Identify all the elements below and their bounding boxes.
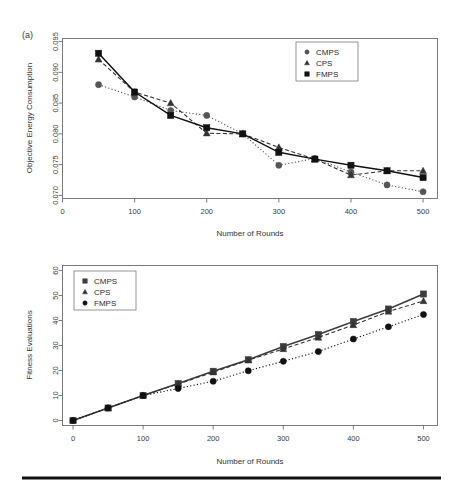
x-tick-label: 500 <box>417 207 430 216</box>
legend-marker-cmps-icon <box>305 50 309 54</box>
legend-label-cps[interactable]: CPS <box>316 59 332 68</box>
x-tick-label: 300 <box>277 434 290 443</box>
top-y-axis-title: Objective Energy Consumption <box>25 63 34 173</box>
data-point-fmps <box>210 378 216 384</box>
data-point-fmps <box>168 112 174 118</box>
y-tick-label: 0.095 <box>51 32 60 51</box>
data-point-fmps <box>384 168 390 174</box>
data-point-fmps <box>70 417 76 423</box>
x-tick-label: 200 <box>207 434 220 443</box>
x-tick-label: 200 <box>200 207 213 216</box>
x-tick-label: 300 <box>273 207 286 216</box>
top-x-axis-title: Number of Rounds <box>216 229 283 238</box>
x-tick-label: 500 <box>417 434 430 443</box>
y-tick-label: 30 <box>51 341 60 349</box>
data-point-fmps <box>240 131 246 137</box>
data-point-cmps <box>276 162 282 168</box>
bottom-y-axis-title: Fitness Evaluations <box>25 310 34 379</box>
legend-marker-fmps-icon <box>305 72 309 76</box>
figure-background <box>0 0 463 490</box>
y-tick-label: 0.090 <box>51 63 60 82</box>
data-point-fmps <box>350 336 356 342</box>
data-point-fmps <box>315 348 321 354</box>
y-tick-label: 20 <box>51 366 60 374</box>
data-point-fmps <box>175 385 181 391</box>
y-tick-label: 40 <box>51 316 60 324</box>
data-point-cmps <box>95 82 101 88</box>
y-tick-label: 0.085 <box>51 94 60 113</box>
x-tick-label: 100 <box>137 434 150 443</box>
x-tick-label: 0 <box>71 434 75 443</box>
y-tick-label: 0.075 <box>51 155 60 174</box>
figure-canvas: (a) 0.0700.0750.0800.0850.0900.095 01002… <box>0 0 463 490</box>
data-point-cmps <box>384 182 390 188</box>
y-tick-label: 0 <box>51 418 60 422</box>
x-tick-label: 400 <box>347 434 360 443</box>
data-point-fmps <box>140 392 146 398</box>
legend-label-fmps[interactable]: FMPS <box>94 299 116 308</box>
data-point-cmps <box>420 189 426 195</box>
bottom-x-axis-title: Number of Rounds <box>216 457 283 466</box>
y-tick-label: 10 <box>51 391 60 399</box>
data-point-cmps <box>420 291 426 297</box>
data-point-fmps <box>95 50 101 56</box>
y-tick-label: 0.070 <box>51 186 60 205</box>
legend-label-cps[interactable]: CPS <box>94 288 110 297</box>
legend-marker-fmps-icon <box>83 301 87 305</box>
data-point-fmps <box>385 324 391 330</box>
data-point-fmps <box>276 149 282 155</box>
y-tick-label: 0.080 <box>51 124 60 143</box>
y-tick-label: 60 <box>51 266 60 274</box>
data-point-fmps <box>105 405 111 411</box>
x-tick-label: 0 <box>60 207 64 216</box>
data-point-cmps <box>204 112 210 118</box>
data-point-fmps <box>348 162 354 168</box>
legend-label-cmps[interactable]: CMPS <box>94 277 117 286</box>
data-point-fmps <box>420 311 426 317</box>
data-point-fmps <box>204 125 210 131</box>
legend-label-cmps[interactable]: CMPS <box>316 48 339 57</box>
x-tick-label: 400 <box>345 207 358 216</box>
data-point-fmps <box>420 174 426 180</box>
bottom-legend[interactable]: CMPSCPSFMPS <box>74 271 136 310</box>
panel-label-a: (a) <box>22 30 33 40</box>
legend-label-fmps[interactable]: FMPS <box>316 70 338 79</box>
x-tick-label: 100 <box>128 207 141 216</box>
data-point-fmps <box>132 89 138 95</box>
data-point-fmps <box>280 358 286 364</box>
top-legend[interactable]: CMPSCPSFMPS <box>296 42 358 81</box>
y-tick-label: 50 <box>51 291 60 299</box>
data-point-fmps <box>312 156 318 162</box>
legend-marker-cmps-icon <box>83 279 87 283</box>
data-point-fmps <box>245 368 251 374</box>
